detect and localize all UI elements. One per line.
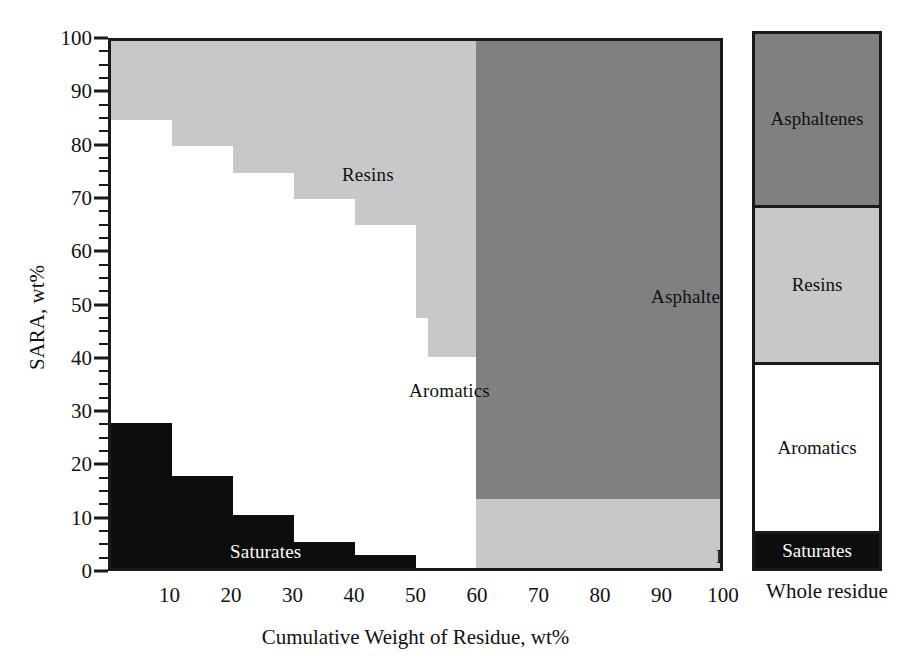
y-tick-minor [99,157,108,159]
y-tick-minor [99,170,108,172]
y-tick-minor [99,397,108,399]
whole-residue-caption: Whole residue [737,579,916,604]
y-tick-major [94,37,108,40]
area-aromatics [355,225,416,554]
whole-residue-segment-asphaltenes: Asphaltenes [755,34,879,205]
area-resins-step [111,41,172,120]
plot-area: Resins Aromatics Asphaltenes Resins Satu… [108,38,723,571]
y-tick-major [94,516,108,519]
y-tick-label: 70 [71,187,92,208]
area-aromatics [294,199,355,542]
whole-residue-segment-saturates: Saturates [755,531,879,568]
y-tick-minor [99,423,108,425]
y-tick-major [94,250,108,253]
y-axis: SARA, wt% 0102030405060708090100 [0,0,108,662]
x-tick-label: 40 [344,585,365,606]
y-tick-minor [99,370,108,372]
y-tick-minor [99,237,108,239]
y-tick-major [94,463,108,466]
area-resins-step [172,41,202,146]
y-tick-major [94,356,108,359]
y-tick-minor [99,277,108,279]
plot-frame: Resins Aromatics Asphaltenes Resins Satu… [108,38,723,571]
x-axis-title: Cumulative Weight of Residue, wt% [108,625,723,650]
y-tick-label: 40 [71,347,92,368]
y-tick-minor [99,64,108,66]
whole-residue-segment-label: Resins [792,274,843,296]
y-tick-minor [99,77,108,79]
y-tick-minor [99,50,108,52]
y-tick-label: 0 [82,561,93,582]
y-tick-minor [99,343,108,345]
x-tick-label: 20 [221,585,242,606]
y-tick-minor [99,210,108,212]
area-saturates [294,542,355,568]
whole-residue-panel: AsphaltenesResinsAromaticsSaturates Whol… [752,31,882,571]
whole-residue-segment-aromatics: Aromatics [755,362,879,530]
y-tick-label: 10 [71,507,92,528]
area-resins-band [476,499,720,568]
y-tick-minor [99,490,108,492]
y-tick-major [94,570,108,573]
area-resins-step [294,41,337,225]
area-saturates [233,515,294,568]
sara-distribution-figure: SARA, wt% 0102030405060708090100 Resins … [0,0,916,662]
y-tick-minor [99,437,108,439]
x-tick-label: 30 [282,585,303,606]
y-tick-minor [99,317,108,319]
x-tick-label: 100 [707,585,739,606]
x-axis: 102030405060708090100 Cumulative Weight … [108,571,723,661]
y-tick-minor [99,130,108,132]
x-tick-label: 90 [651,585,672,606]
y-tick-minor [99,477,108,479]
y-tick-minor [99,290,108,292]
whole-residue-segment-label: Asphaltenes [771,108,864,130]
y-tick-label: 20 [71,454,92,475]
x-tick-label: 50 [405,585,426,606]
y-tick-major [94,303,108,306]
x-tick-label: 10 [159,585,180,606]
y-tick-minor [99,450,108,452]
area-resins-step [428,41,477,357]
y-tick-minor [99,184,108,186]
whole-residue-segment-label: Aromatics [777,437,856,459]
x-tick-label: 80 [590,585,611,606]
y-tick-minor [99,330,108,332]
y-tick-label: 80 [71,134,92,155]
area-saturates [172,476,233,568]
y-tick-label: 30 [71,401,92,422]
stacked-area-svg [111,41,720,568]
y-tick-major [94,196,108,199]
y-tick-minor [99,104,108,106]
y-tick-major [94,143,108,146]
y-tick-minor [99,117,108,119]
y-tick-label: 60 [71,241,92,262]
x-tick-label: 70 [528,585,549,606]
whole-residue-segment-label: Saturates [782,540,852,562]
whole-residue-bar: AsphaltenesResinsAromaticsSaturates [752,31,882,571]
y-tick-label: 50 [71,294,92,315]
y-tick-major [94,410,108,413]
area-aromatics [233,173,294,516]
y-tick-minor [99,264,108,266]
y-tick-label: 100 [61,28,93,49]
y-tick-minor [99,557,108,559]
y-axis-title: SARA, wt% [25,218,50,418]
y-tick-minor [99,543,108,545]
area-aromatics [111,120,172,423]
x-tick-label: 60 [467,585,488,606]
area-aromatics [172,146,233,475]
whole-residue-segment-resins: Resins [755,205,879,363]
area-saturates [355,555,416,568]
y-tick-minor [99,383,108,385]
y-tick-major [94,90,108,93]
area-asphaltenes [476,41,720,568]
y-tick-minor [99,530,108,532]
y-tick-label: 90 [71,81,92,102]
y-tick-minor [99,224,108,226]
area-aromatics [416,357,477,568]
y-tick-minor [99,503,108,505]
area-saturates [111,423,172,568]
